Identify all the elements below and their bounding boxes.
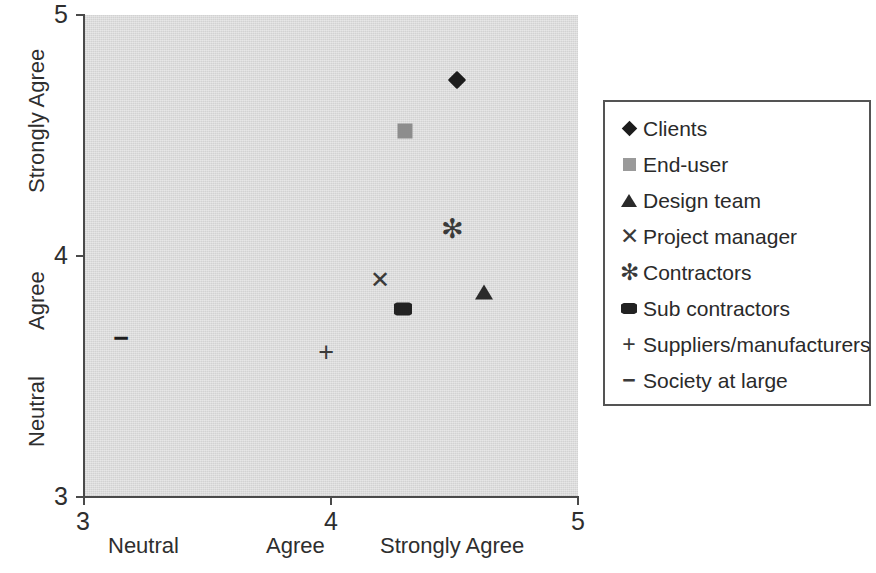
x-tick-mark-3: [83, 497, 85, 505]
x-tick-mark-4: [330, 497, 332, 505]
square-marker-icon: [615, 153, 643, 175]
diamond-icon: [621, 120, 637, 136]
legend-item-label: Project manager: [643, 226, 797, 247]
diamond-marker-icon: [615, 117, 643, 139]
x-mark-icon: ✕: [615, 225, 643, 247]
hexagon-marker-icon: [615, 297, 643, 319]
data-point-suppliers-manufacturers[interactable]: +: [318, 339, 334, 366]
y-category-label-neutral: Neutral: [26, 376, 48, 447]
data-point-end-user[interactable]: [398, 123, 413, 138]
data-point-contractors[interactable]: ✻: [441, 216, 464, 243]
x-tick-label-3: 3: [76, 509, 90, 534]
legend-item-design-team[interactable]: Design team: [605, 182, 869, 218]
y-tick-label-5: 5: [54, 2, 68, 27]
data-point-project-manager[interactable]: ✕: [370, 268, 390, 292]
asterisk-icon: ✻: [615, 261, 643, 283]
x-tick-label-5: 5: [571, 509, 585, 534]
legend-item-label: Clients: [643, 118, 707, 139]
hexagon-icon: [622, 303, 636, 314]
legend-item-label: Design team: [643, 190, 761, 211]
scatter-chart-figure: 5 4 3 3 4 5 Strongly Agree Agree Neutral…: [0, 0, 876, 573]
x-tick-label-4: 4: [324, 509, 338, 534]
legend-box: ClientsEnd-userDesign team✕Project manag…: [603, 100, 871, 406]
dash-icon-glyph: −: [622, 369, 635, 392]
asterisk-icon-glyph: ✻: [620, 261, 639, 284]
y-tick-label-3: 3: [54, 484, 68, 509]
x-category-label-strongly-agree: Strongly Agree: [380, 535, 524, 557]
legend-item-project-manager[interactable]: ✕Project manager: [605, 218, 869, 254]
x-category-label-agree: Agree: [266, 535, 325, 557]
plus-icon: +: [615, 333, 643, 355]
y-tick-label-4: 4: [54, 243, 68, 268]
dash-icon: −: [615, 369, 643, 391]
legend-item-label: Contractors: [643, 262, 752, 283]
legend-item-label: Suppliers/manufacturers: [643, 334, 871, 355]
y-tick-mark-5: [76, 14, 84, 16]
y-category-label-strongly-agree: Strongly Agree: [26, 49, 48, 193]
data-point-design-team[interactable]: [475, 285, 493, 300]
x-mark-icon-glyph: ✕: [620, 225, 639, 248]
data-point-society-at-large[interactable]: −: [113, 324, 129, 351]
legend-item-sub-contractors[interactable]: Sub contractors: [605, 290, 869, 326]
legend-item-society-at-large[interactable]: −Society at large: [605, 362, 869, 398]
legend-item-label: Society at large: [643, 370, 788, 391]
plus-icon-glyph: +: [622, 333, 635, 356]
legend-item-label: End-user: [643, 154, 728, 175]
legend-item-suppliers-manufacturers[interactable]: +Suppliers/manufacturers: [605, 326, 869, 362]
legend-item-label: Sub contractors: [643, 298, 790, 319]
plot-area: [84, 15, 578, 497]
legend-item-contractors[interactable]: ✻Contractors: [605, 254, 869, 290]
y-tick-mark-4: [76, 255, 84, 257]
legend-item-clients[interactable]: Clients: [605, 110, 869, 146]
triangle-marker-icon: [615, 189, 643, 211]
legend-item-end-user[interactable]: End-user: [605, 146, 869, 182]
data-point-sub-contractors[interactable]: [395, 303, 411, 316]
x-tick-mark-5: [577, 497, 579, 505]
x-category-label-neutral: Neutral: [108, 535, 179, 557]
y-category-label-agree: Agree: [26, 271, 48, 330]
triangle-icon: [621, 194, 637, 207]
square-icon: [623, 158, 636, 171]
